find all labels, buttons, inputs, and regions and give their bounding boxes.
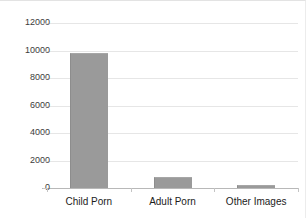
x-axis-tick-label: Other Images (214, 196, 298, 207)
y-axis-tick-mark (43, 133, 47, 134)
x-axis-tick-mark (214, 188, 215, 192)
x-axis-tick-label: Child Porn (47, 196, 131, 207)
x-axis-tick-mark (131, 188, 132, 192)
y-axis-tick-mark (43, 106, 47, 107)
plot-area (47, 23, 298, 188)
y-axis-tick-mark (43, 51, 47, 52)
y-axis-tick-mark (43, 78, 47, 79)
y-axis-tick-mark (43, 161, 47, 162)
bar (154, 177, 192, 188)
x-axis-tick-mark (298, 188, 299, 192)
gridline (47, 23, 298, 24)
bar (70, 53, 108, 188)
bar-chart: 020004000600080001000012000 Child PornAd… (0, 0, 306, 218)
x-axis-tick-label: Adult Porn (131, 196, 215, 207)
x-axis-line (42, 188, 298, 189)
x-axis-tick-mark (47, 188, 48, 192)
y-axis-tick-mark (43, 23, 47, 24)
gridline (47, 51, 298, 52)
